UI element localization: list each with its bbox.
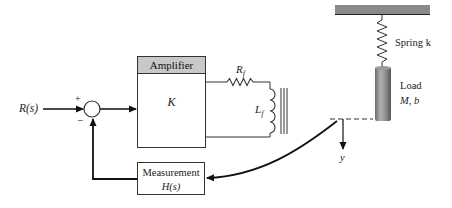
inductor-icon	[270, 89, 275, 133]
measurement-transfer-function: H(s)	[138, 181, 204, 192]
feedback-path	[93, 119, 137, 179]
resistor-subscript: f	[243, 69, 245, 78]
load-label: Load	[400, 81, 422, 92]
diagram-canvas	[0, 0, 452, 208]
plus-sign: +	[75, 94, 81, 104]
summing-junction	[84, 101, 100, 117]
amplifier-block: Amplifier K	[137, 56, 206, 148]
resistor-symbol: R	[236, 63, 243, 75]
spring-icon	[377, 15, 387, 67]
amplifier-gain: K	[138, 95, 205, 110]
measurement-block: Measurement H(s)	[137, 162, 205, 195]
sensor-curve-arrow	[207, 121, 337, 178]
ceiling-support	[335, 5, 430, 14]
load-mass	[375, 67, 391, 121]
amplifier-title: Amplifier	[138, 57, 205, 74]
resistor-icon	[227, 79, 253, 86]
input-label: R(s)	[19, 103, 38, 115]
measurement-title: Measurement	[138, 167, 204, 178]
inductor-label: Lf	[255, 104, 263, 118]
minus-sign: −	[77, 115, 83, 126]
resistor-label: Rf	[236, 64, 245, 78]
field-wire-bottom	[206, 133, 270, 137]
spring-label: Spring k	[395, 38, 431, 49]
inductor-subscript: f	[261, 109, 263, 118]
output-y-label: y	[340, 153, 345, 164]
load-params-label: M, b	[400, 96, 419, 107]
field-wire-top-right	[253, 82, 270, 89]
